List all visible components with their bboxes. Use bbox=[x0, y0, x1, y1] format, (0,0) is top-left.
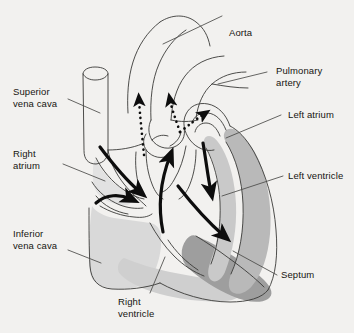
aortic-valve-cusp-left bbox=[152, 135, 168, 140]
tricuspid-leaflet-2 bbox=[136, 152, 139, 186]
pulmonary-branch bbox=[212, 84, 248, 88]
label-right-ventricle: Right ventricle bbox=[118, 296, 154, 319]
av-boundary bbox=[108, 144, 142, 150]
label-left-atrium: Left atrium bbox=[288, 109, 334, 121]
heart-diagram-canvas bbox=[0, 0, 354, 333]
leader-left-atrium bbox=[226, 115, 281, 138]
leader-aorta bbox=[163, 16, 222, 44]
leader-pulmonary-artery bbox=[218, 72, 267, 84]
left-atrium-inner-2 bbox=[195, 123, 220, 136]
label-right-atrium: Right atrium bbox=[13, 148, 40, 171]
label-septum: Septum bbox=[281, 269, 314, 281]
arrow-aortic-outflow-up bbox=[139, 100, 144, 155]
label-inferior-vena-cava: Inferior vena cava bbox=[13, 228, 57, 251]
aortic-valve-outline bbox=[149, 120, 185, 148]
arrow-right-ventricle-outflow bbox=[160, 156, 170, 232]
superior-vena-cava-outline bbox=[83, 67, 108, 164]
label-pulmonary-artery: Pulmonary artery bbox=[276, 65, 322, 88]
aorta-outline-inner bbox=[151, 30, 186, 120]
superior-vena-cava-lip bbox=[83, 74, 108, 80]
label-superior-vena-cava: Superior vena cava bbox=[13, 86, 57, 109]
label-aorta: Aorta bbox=[229, 27, 252, 39]
leader-superior-vena-cava bbox=[68, 99, 100, 113]
arrow-left-ventricle-outflow bbox=[178, 186, 224, 236]
aorta-outline bbox=[128, 22, 160, 113]
myocardium-shading bbox=[89, 129, 271, 302]
ivc-valve-fold bbox=[100, 206, 152, 217]
label-left-ventricle: Left ventricle bbox=[288, 170, 343, 182]
heart-anatomy-figure: Superior vena cava Right atrium Inferior… bbox=[0, 0, 354, 333]
